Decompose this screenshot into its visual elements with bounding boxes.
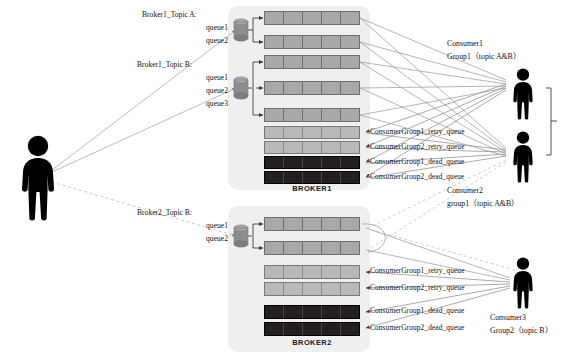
consumer1-group: Group1（topic A&B） <box>447 50 521 63</box>
queue-tag-broker1-dead-2: ConsumerGroup2_dead_queue <box>370 172 464 181</box>
queue-bar-broker1-retry-1 <box>264 126 360 139</box>
queue-bar-broker1-topic-a-q2 <box>264 35 360 49</box>
queue-tag-broker1-retry-1: ConsumerGroup1_retry_queue <box>370 127 465 136</box>
broker1-label: BROKER1 <box>264 184 360 193</box>
consumer3-name: Consumer3 <box>490 311 553 324</box>
topic-title: Broker1_Topic A: <box>142 8 228 21</box>
queue-bar-broker2-dead-1 <box>264 305 360 319</box>
cylinder-broker1-topic-b <box>234 77 248 99</box>
queue-bar-broker1-dead-1 <box>264 156 360 169</box>
producer-person-icon <box>17 135 59 221</box>
queue-bar-broker2-topic-b-q2 <box>264 241 360 255</box>
consumer2-caption: Consumer2 group1（topic A&B） <box>447 184 519 210</box>
consumer3-caption: Consumer3 Group2（topic B） <box>490 311 553 337</box>
topic-label-broker1-topic-a: Broker1_Topic A: queue1 queue2 <box>142 8 228 47</box>
topic-label-broker2-topic-b: Broker2_Topic B: queue1 queue2 <box>137 206 228 245</box>
broker2-label: BROKER2 <box>264 338 360 347</box>
consumer2-name: Consumer2 <box>447 184 519 197</box>
queue-tag-broker2-retry-1: ConsumerGroup1_retry_queue <box>370 266 465 275</box>
queue-bar-broker2-retry-2 <box>264 282 360 296</box>
consumer1-person-icon <box>506 68 540 120</box>
queue-bar-broker2-dead-2 <box>264 322 360 336</box>
cylinder-broker1-topic-a <box>234 19 248 41</box>
topic-queue: queue2 <box>142 34 228 47</box>
queue-tag-broker2-dead-2: ConsumerGroup2_dead_queue <box>370 323 464 332</box>
queue-bar-broker2-topic-b-q1 <box>264 217 360 231</box>
topic-queue: queue1 <box>137 71 228 84</box>
queue-bar-broker1-topic-b-q1 <box>264 55 360 69</box>
queue-bar-broker1-dead-2 <box>264 171 360 184</box>
consumer2-group: group1（topic A&B） <box>447 197 519 210</box>
consumer3-group: Group2（topic B） <box>490 324 553 337</box>
topic-queue: queue1 <box>142 21 228 34</box>
queue-tag-broker2-dead-1: ConsumerGroup1_dead_queue <box>370 306 464 315</box>
topic-queue: queue2 <box>137 232 228 245</box>
topic-title: Broker2_Topic B: <box>137 206 228 219</box>
consumer1-caption: Consumer1 Group1（topic A&B） <box>447 37 521 63</box>
queue-bar-broker1-retry-2 <box>264 141 360 154</box>
consumer1-name: Consumer1 <box>447 37 521 50</box>
topic-label-broker1-topic-b: Broker1_Topic B: queue1 queue2 queue3 <box>137 58 228 110</box>
queue-bar-broker2-retry-1 <box>264 265 360 279</box>
queue-bar-broker1-topic-b-q2 <box>264 81 360 95</box>
cylinder-broker2-topic-b <box>234 225 248 247</box>
consumer2-person-icon <box>506 131 540 183</box>
topic-queue: queue1 <box>137 219 228 232</box>
topic-queue: queue3 <box>137 97 228 110</box>
queue-tag-broker2-retry-2: ConsumerGroup2_retry_queue <box>370 283 465 292</box>
topic-queue: queue2 <box>137 84 228 97</box>
consumer3-person-icon <box>506 257 540 309</box>
queue-tag-broker1-dead-1: ConsumerGroup1_dead_queue <box>370 157 464 166</box>
queue-tag-broker1-retry-2: ConsumerGroup2_retry_queue <box>370 142 465 151</box>
diagram-canvas: Broker1_Topic A: queue1 queue2 Broker1_T… <box>0 0 568 358</box>
topic-title: Broker1_Topic B: <box>137 58 228 71</box>
queue-bar-broker1-topic-a-q1 <box>264 11 360 25</box>
queue-bar-broker1-topic-b-q3 <box>264 108 360 122</box>
